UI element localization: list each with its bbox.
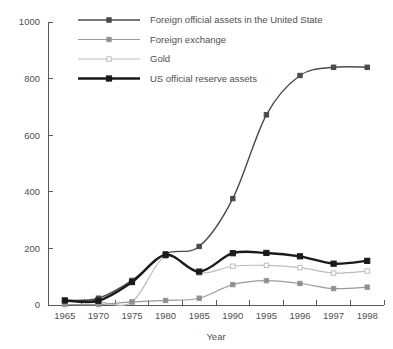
series-marker [264,250,269,255]
y-tick-label: 1000 [19,16,40,27]
x-tick-label: 1965 [54,310,75,321]
y-tick-label: 200 [24,243,40,254]
series-marker [298,265,302,269]
x-tick-label: 1975 [121,310,142,321]
legend-layer: Foreign official assets in the United St… [78,14,323,84]
series-marker [197,269,202,274]
y-tick-label: 600 [24,130,40,141]
legend-marker-swatch [107,57,111,61]
series-marker [365,285,369,289]
series-marker [365,258,370,263]
x-axis-title: Year [206,331,225,342]
series-marker [331,271,335,275]
x-tick-label: 1980 [155,310,176,321]
y-tick-label: 800 [24,73,40,84]
series-marker [231,264,235,268]
series-marker [129,279,134,284]
series-marker [197,296,201,300]
legend-item-2: Gold [78,53,170,64]
series-line [65,252,367,302]
series-marker [96,298,101,303]
series-line [65,67,367,301]
series-marker [231,282,235,286]
series-marker [298,281,302,285]
legend-item-1: Foreign exchange [78,34,226,45]
label-layer: 0200400600800100019651970197519801985199… [19,16,378,342]
series-marker [264,113,268,117]
legend-marker-swatch [107,37,111,41]
x-tick-label: 1970 [88,310,109,321]
x-tick-label: 1997 [323,310,344,321]
legend-item-0: Foreign official assets in the United St… [78,14,323,25]
series-marker [62,298,67,303]
series-0 [63,65,370,303]
series-marker [264,263,268,267]
line-chart: Foreign official assets in the United St… [0,0,393,349]
x-tick-label: 1998 [357,310,378,321]
chart-container: Foreign official assets in the United St… [0,0,393,349]
legend-item-3: US official reserve assets [78,73,257,84]
x-tick-label: 1995 [256,310,277,321]
series-marker [163,298,167,302]
legend-marker-swatch [106,76,111,81]
y-tick-label: 0 [35,299,40,310]
y-tick-label: 400 [24,186,40,197]
series-layer [62,65,370,307]
series-marker [298,73,302,77]
legend-label: US official reserve assets [150,73,257,84]
series-marker [331,286,335,290]
x-tick-label: 1985 [189,310,210,321]
x-tick-label: 1996 [289,310,310,321]
legend-label: Foreign exchange [150,34,226,45]
series-marker [297,254,302,259]
x-tick-label: 1990 [222,310,243,321]
series-marker [264,278,268,282]
series-3 [62,250,370,303]
series-marker [130,300,134,304]
series-marker [231,196,235,200]
series-marker [163,252,168,257]
legend-label: Gold [150,53,170,64]
series-marker [230,251,235,256]
series-marker [365,65,369,69]
legend-label: Foreign official assets in the United St… [150,14,323,25]
series-marker [365,269,369,273]
legend-marker-swatch [107,18,111,22]
series-marker [331,65,335,69]
series-marker [197,244,201,248]
series-marker [331,261,336,266]
